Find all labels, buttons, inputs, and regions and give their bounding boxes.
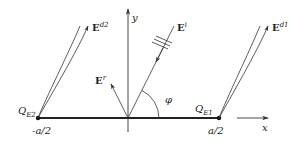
strip-diffraction-diagram: y x -a/2 a/2 Ei Er φ Ed2 QE2 Ed1 [0, 0, 303, 144]
diffracted-beam-1 [219, 26, 268, 118]
diffracted-field-2-label: Ed2 [92, 21, 109, 33]
y-axis-label: y [131, 12, 138, 23]
angle-label: φ [165, 94, 172, 105]
left-end-label: -a/2 [32, 125, 51, 136]
diffracted-field-1-label: Ed1 [272, 21, 289, 33]
edge-label-qe2: QE2 [18, 105, 36, 119]
incident-field-label: Ei [177, 21, 187, 33]
x-axis-label: x [262, 122, 268, 133]
angle-arc [142, 91, 159, 119]
reflected-field-label: Er [95, 74, 107, 86]
wavefront-hatch-icon [152, 36, 172, 49]
right-end-label: a/2 [208, 125, 224, 136]
diffracted-beam-2 [38, 26, 88, 118]
edge-label-qe1: QE1 [195, 103, 213, 117]
reflected-ray [111, 84, 128, 118]
incident-direction-arrow [156, 48, 163, 62]
